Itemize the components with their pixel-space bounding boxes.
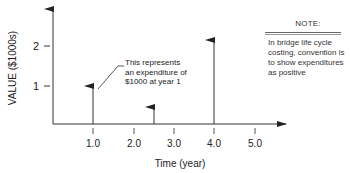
annotation-line-3: $1000 at year 1 [125, 77, 187, 87]
annotation-text: This represents an expenditure of $1000 … [125, 58, 187, 87]
annotation-line-2: an expenditure of [125, 68, 187, 78]
note-title: NOTE: [268, 19, 348, 29]
note-line-1: In bridge life cycle [268, 38, 348, 48]
x-tick-label-4: 4.0 [207, 138, 221, 149]
y-tick-label-2: 2 [33, 40, 39, 52]
note-divider [265, 32, 341, 35]
note-line-2: costing, convention is [268, 48, 348, 58]
x-tick-label-2: 2.0 [127, 138, 141, 149]
y-axis-title: VALUE ($1000s) [7, 31, 18, 105]
annotation-line-1: This represents [125, 58, 187, 68]
x-tick-label-3: 3.0 [167, 138, 181, 149]
x-tick-label-1: 1.0 [86, 138, 100, 149]
y-tick-label-1: 1 [33, 80, 39, 92]
note-box: NOTE: In bridge life cycle costing, conv… [268, 19, 348, 78]
note-line-3: to show expenditures [268, 58, 348, 68]
x-axis-title: Time (year) [155, 158, 206, 169]
annotation-leader-line [98, 66, 124, 89]
x-tick-label-5: 5.0 [248, 138, 262, 149]
note-line-4: as positive [268, 68, 348, 78]
